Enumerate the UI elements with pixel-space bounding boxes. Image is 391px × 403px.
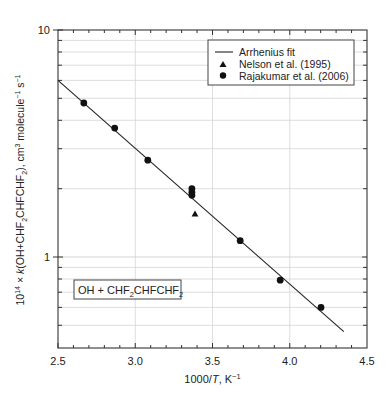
x-tick-label: 4.0 bbox=[282, 355, 297, 367]
data-point bbox=[144, 157, 151, 164]
x-tick-label: 4.5 bbox=[359, 355, 374, 367]
data-point bbox=[189, 192, 196, 199]
data-point bbox=[111, 125, 118, 132]
data-point bbox=[237, 237, 244, 244]
data-point bbox=[277, 277, 284, 284]
x-tick-labels: 2.5 3.0 3.5 4.0 4.5 bbox=[50, 355, 374, 367]
legend: Arrhenius fit Nelson et al. (1995) Rajak… bbox=[208, 40, 354, 85]
y-tick-label: 1 bbox=[44, 251, 50, 263]
x-tick-label: 2.5 bbox=[50, 355, 65, 367]
nelson-point bbox=[192, 211, 199, 217]
y-axis-label: 1014 × k(OH+CHF2CHFCHF2), cm3 molecule−1… bbox=[14, 74, 28, 305]
x-axis-label: 1000/T, K−1 bbox=[184, 372, 240, 385]
legend-nelson-label: Nelson et al. (1995) bbox=[239, 58, 331, 70]
legend-fit-label: Arrhenius fit bbox=[239, 46, 295, 58]
data-point bbox=[318, 304, 325, 311]
legend-circle-icon bbox=[220, 72, 226, 78]
legend-rajakumar-label: Rajakumar et al. (2006) bbox=[239, 70, 349, 82]
data-point bbox=[80, 100, 87, 107]
y-tick-label: 10 bbox=[38, 24, 50, 36]
reaction-annotation: OH + CHF2CHFCHF2 bbox=[74, 280, 183, 299]
y-tick-labels: 10 1 bbox=[38, 24, 50, 263]
x-tick-label: 3.5 bbox=[205, 355, 220, 367]
x-tick-label: 3.0 bbox=[128, 355, 143, 367]
chart: 2.5 3.0 3.5 4.0 4.5 10 1 1000/T, K−1 101… bbox=[0, 0, 391, 403]
